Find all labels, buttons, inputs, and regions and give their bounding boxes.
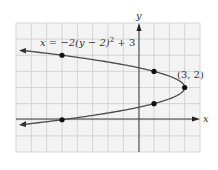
y-axis-label: y — [135, 10, 142, 21]
data-point — [59, 53, 64, 58]
vertex-label: (3, 2) — [177, 69, 204, 80]
data-point — [151, 101, 156, 106]
parabola-graph: x y x = −2(y − 2)2 + 3 (3, 2) — [0, 0, 218, 170]
data-point — [182, 85, 187, 90]
data-point — [59, 117, 64, 122]
x-axis-label: x — [203, 113, 209, 124]
data-point — [151, 69, 156, 74]
equation-label: x = −2(y − 2)2 + 3 — [40, 36, 135, 48]
